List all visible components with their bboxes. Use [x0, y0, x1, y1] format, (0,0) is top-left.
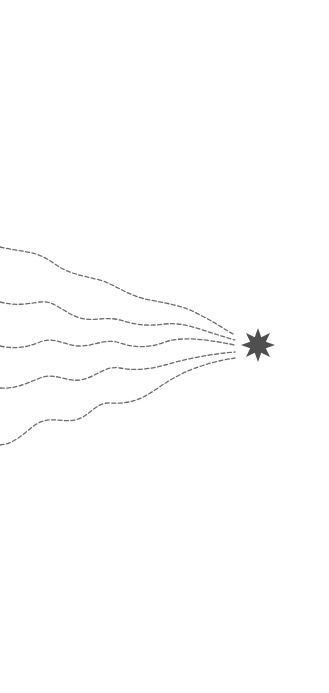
dashed-trails [0, 247, 235, 445]
dashed-trail [0, 302, 235, 340]
converging-trails-illustration [0, 0, 329, 693]
dashed-trail [0, 247, 235, 335]
dashed-trail [0, 352, 235, 388]
dashed-trail [0, 339, 235, 348]
star-icon [241, 328, 275, 362]
dashed-trail [0, 358, 235, 445]
